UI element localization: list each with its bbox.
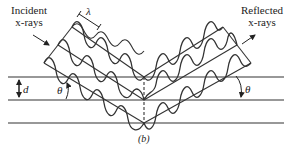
spacing-label: d xyxy=(23,83,29,95)
incident-label-line2: x-rays xyxy=(4,16,54,28)
reflected-label-line2: x-rays xyxy=(236,16,288,28)
reflected-label-line1: Reflected xyxy=(236,4,288,16)
wavelength-label: λ xyxy=(86,5,91,17)
incident-label: Incident x-rays xyxy=(4,4,54,28)
incident-label-line1: Incident xyxy=(4,4,54,16)
reflected-label: Reflected x-rays xyxy=(236,4,288,28)
panel-label: (b) xyxy=(138,133,150,145)
angle-right-label: θ xyxy=(245,83,250,95)
angle-left-label: θ xyxy=(57,84,62,96)
